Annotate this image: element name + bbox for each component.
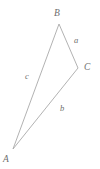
side-label-b: b — [60, 104, 64, 113]
vertex-label-c: C — [84, 63, 90, 73]
vertex-label-a: A — [3, 155, 9, 165]
side-label-a: a — [74, 36, 78, 45]
vertex-label-b: B — [54, 9, 60, 19]
side-label-c: c — [25, 72, 29, 81]
triangle-diagram: B C A a c b — [0, 0, 100, 169]
triangle-outline-svg — [0, 0, 100, 169]
